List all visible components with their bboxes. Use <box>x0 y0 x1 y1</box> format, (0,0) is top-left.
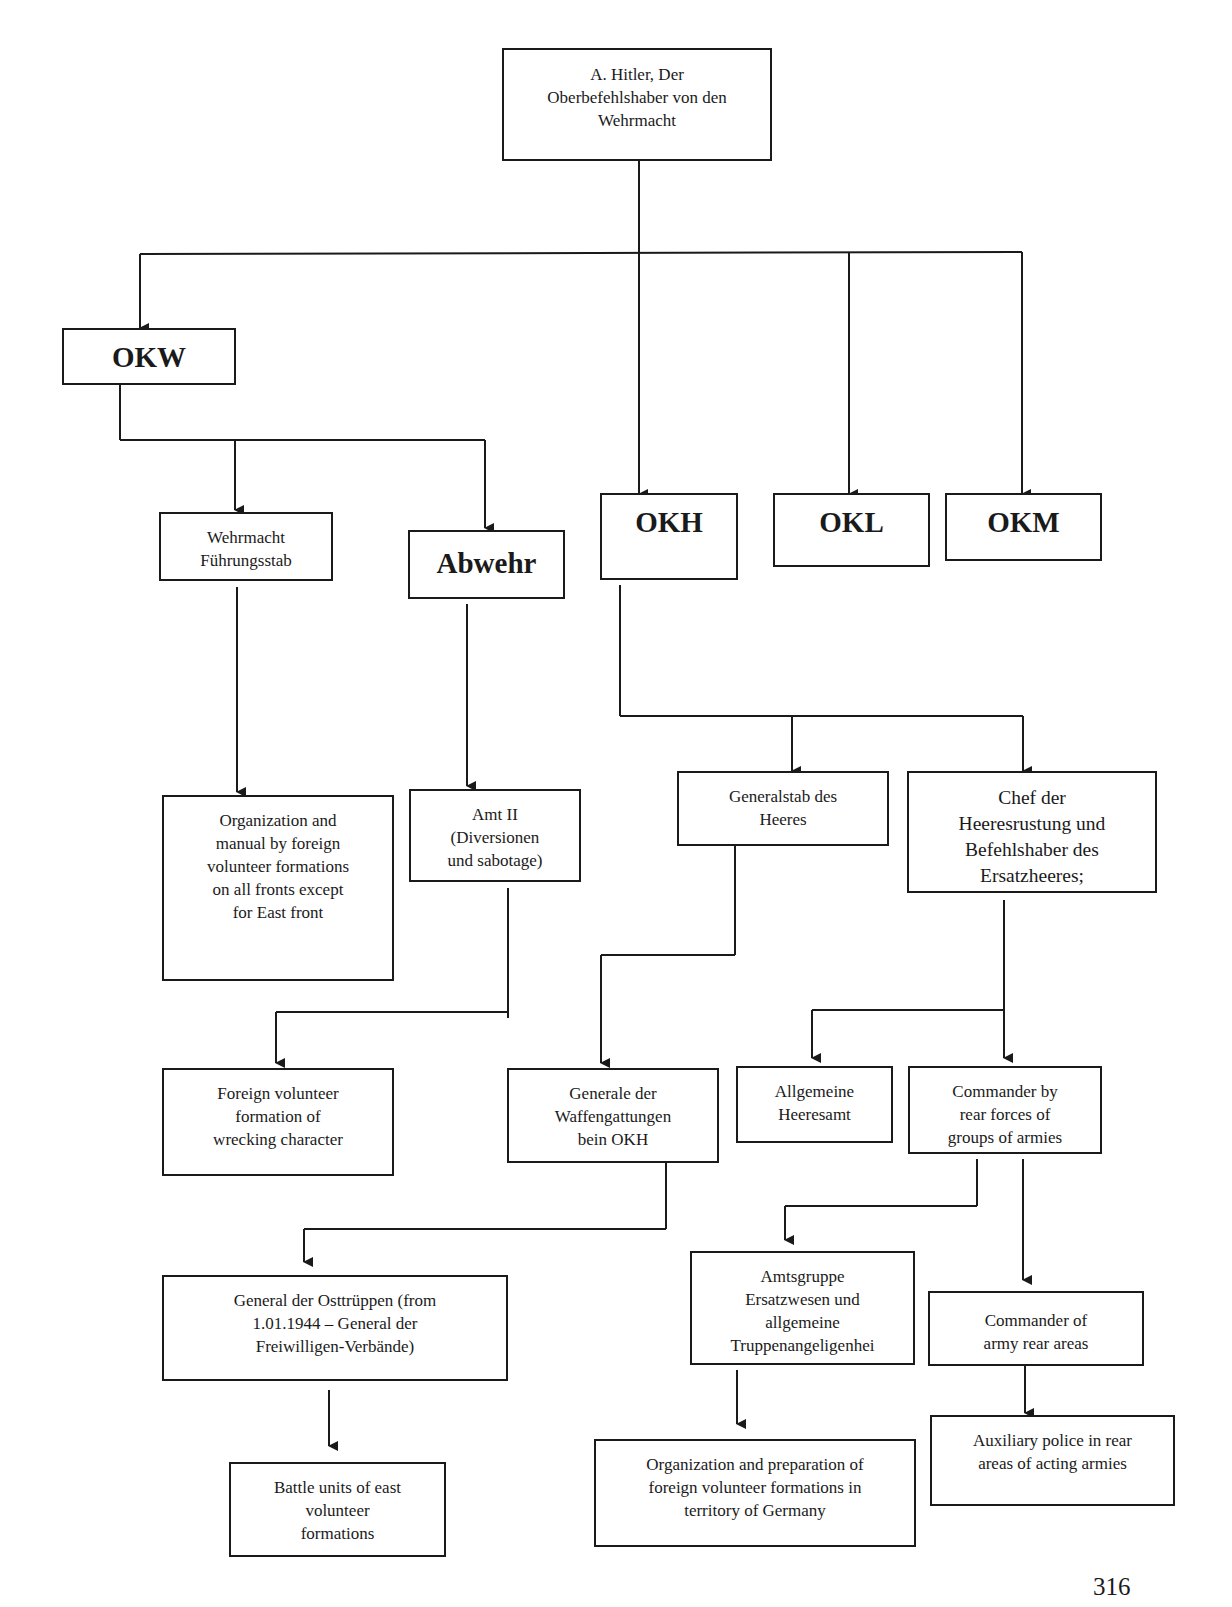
node-commander-groups-armies: Commander by rear forces of groups of ar… <box>908 1066 1102 1154</box>
node-label: A. Hitler, Der Oberbefehlshaber von den … <box>547 63 726 132</box>
node-label: Auxiliary police in rear areas of acting… <box>973 1429 1132 1475</box>
node-okl: OKL <box>773 493 930 567</box>
node-battle-units: Battle units of east volunteer formation… <box>229 1462 446 1557</box>
node-label: Abwehr <box>437 546 537 580</box>
page-number: 316 <box>1093 1573 1131 1601</box>
node-label: Organization and preparation of foreign … <box>646 1453 863 1522</box>
node-label: OKW <box>112 340 186 374</box>
node-label: Commander by rear forces of groups of ar… <box>948 1080 1062 1149</box>
node-generale-waffengattungen: Generale der Waffengattungen bein OKH <box>507 1068 719 1163</box>
node-amtsgruppe: Amtsgruppe Ersatzwesen und allgemeine Tr… <box>690 1251 915 1365</box>
node-generalstab: Generalstab des Heeres <box>677 771 889 846</box>
node-label: General der Osttrüppen (from 1.01.1944 –… <box>234 1289 437 1358</box>
node-label: OKL <box>819 505 883 539</box>
node-chef-heeresrustung: Chef der Heeresrustung und Befehlshaber … <box>907 771 1157 893</box>
node-label: Allgemeine Heeresamt <box>775 1080 854 1126</box>
node-label: Organization and manual by foreign volun… <box>207 809 349 924</box>
node-commander-army-rear: Commander of army rear areas <box>928 1291 1144 1366</box>
node-amt-ii: Amt II (Diversionen und sabotage) <box>409 789 581 882</box>
node-label: OKM <box>987 505 1060 539</box>
node-label: Chef der Heeresrustung und Befehlshaber … <box>959 785 1106 889</box>
node-label: Wehrmacht Führungsstab <box>200 526 292 572</box>
node-label: Commander of army rear areas <box>984 1309 1089 1355</box>
node-okm: OKM <box>945 493 1102 561</box>
node-org-manual: Organization and manual by foreign volun… <box>162 795 394 981</box>
node-label: Generalstab des Heeres <box>729 785 837 831</box>
node-allgemeine-heeresamt: Allgemeine Heeresamt <box>736 1066 893 1143</box>
node-foreign-wrecking: Foreign volunteer formation of wrecking … <box>162 1068 394 1176</box>
node-hitler: A. Hitler, Der Oberbefehlshaber von den … <box>502 48 772 161</box>
node-abwehr: Abwehr <box>408 530 565 599</box>
node-label: Amtsgruppe Ersatzwesen und allgemeine Tr… <box>731 1265 875 1357</box>
node-label: Battle units of east volunteer formation… <box>274 1476 401 1545</box>
node-org-preparation: Organization and preparation of foreign … <box>594 1439 916 1547</box>
node-label: Generale der Waffengattungen bein OKH <box>555 1082 671 1151</box>
node-auxiliary-police: Auxiliary police in rear areas of acting… <box>930 1415 1175 1506</box>
node-label: OKH <box>635 505 703 539</box>
node-label: Amt II (Diversionen und sabotage) <box>448 803 543 872</box>
node-wehrmacht-fuehrungsstab: Wehrmacht Führungsstab <box>159 512 333 581</box>
node-okh: OKH <box>600 493 738 580</box>
node-okw: OKW <box>62 328 236 385</box>
node-general-osttruppen: General der Osttrüppen (from 1.01.1944 –… <box>162 1275 508 1381</box>
node-label: Foreign volunteer formation of wrecking … <box>213 1082 343 1151</box>
